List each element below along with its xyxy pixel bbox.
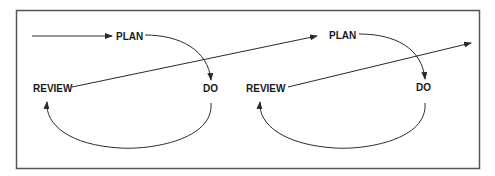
- do-to-review-arrow-1: [47, 102, 211, 148]
- pdca-diagram: PLAN DO REVIEW PLAN DO REVIEW: [0, 0, 495, 176]
- plan-label-1: PLAN: [116, 31, 143, 42]
- review-to-next-arrow: [288, 43, 471, 87]
- do-to-review-arrow-2: [260, 102, 425, 148]
- review-label-2: REVIEW: [246, 83, 286, 94]
- plan-label-2: PLAN: [329, 30, 356, 41]
- do-label-2: DO: [416, 82, 431, 93]
- review-label-1: REVIEW: [33, 83, 73, 94]
- review-to-plan-arrow: [72, 36, 317, 87]
- do-label-1: DO: [203, 83, 218, 94]
- plan-to-do-arrow-1: [145, 35, 211, 80]
- diagram-svg: PLAN DO REVIEW PLAN DO REVIEW: [0, 0, 495, 176]
